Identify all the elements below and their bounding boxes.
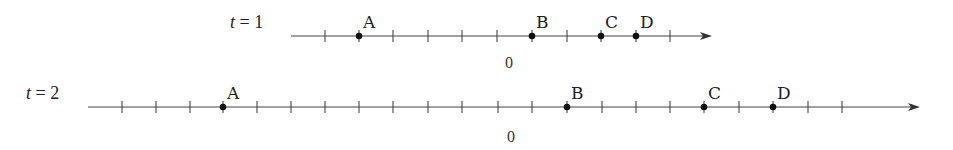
- point-label-a: A: [362, 12, 376, 32]
- number-line-t1: t = 1ABCD0: [230, 12, 712, 71]
- number-line-t2: t = 2ABCD0: [26, 83, 920, 145]
- point-d: [770, 104, 777, 111]
- point-label-a: A: [226, 83, 240, 103]
- point-a: [220, 104, 227, 111]
- point-label-b: B: [536, 12, 549, 32]
- point-label-d: D: [777, 83, 791, 103]
- point-d: [633, 33, 640, 40]
- number-line-diagram: t = 1ABCD0t = 2ABCD0: [0, 0, 953, 150]
- point-label-b: B: [571, 83, 584, 103]
- point-b: [529, 33, 536, 40]
- point-c: [598, 33, 605, 40]
- time-label: t = 2: [26, 83, 59, 103]
- point-a: [356, 33, 363, 40]
- point-b: [564, 104, 571, 111]
- zero-label: 0: [505, 54, 513, 71]
- point-c: [701, 104, 708, 111]
- zero-label: 0: [507, 128, 515, 145]
- point-label-c: C: [708, 83, 721, 103]
- time-label: t = 1: [230, 12, 263, 32]
- point-label-c: C: [605, 12, 618, 32]
- point-label-d: D: [640, 12, 654, 32]
